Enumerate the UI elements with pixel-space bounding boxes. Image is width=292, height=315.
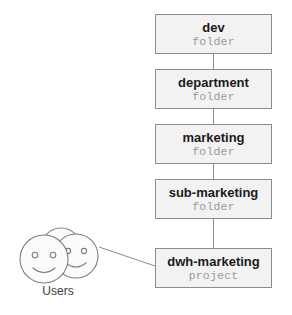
- node-dwh-marketing[interactable]: dwh-marketing project: [155, 248, 272, 288]
- users-label: Users: [14, 284, 102, 298]
- node-name: dwh-marketing: [167, 254, 259, 269]
- smiley-face-front: [20, 235, 68, 283]
- node-department[interactable]: department folder: [155, 69, 272, 109]
- node-type: folder: [192, 90, 235, 104]
- node-type: project: [189, 269, 239, 283]
- users-smiley-icon: [14, 226, 114, 286]
- node-sub-marketing[interactable]: sub-marketing folder: [155, 179, 272, 219]
- folder-hierarchy-diagram: dev folder department folder marketing f…: [0, 0, 292, 315]
- users-group[interactable]: Users: [14, 226, 114, 306]
- node-name: department: [178, 75, 249, 90]
- node-type: folder: [192, 145, 235, 159]
- node-type: folder: [192, 200, 235, 214]
- node-dev[interactable]: dev folder: [155, 14, 272, 54]
- node-marketing[interactable]: marketing folder: [155, 124, 272, 164]
- node-name: dev: [202, 20, 224, 35]
- node-name: sub-marketing: [169, 185, 259, 200]
- node-name: marketing: [182, 130, 244, 145]
- node-type: folder: [192, 35, 235, 49]
